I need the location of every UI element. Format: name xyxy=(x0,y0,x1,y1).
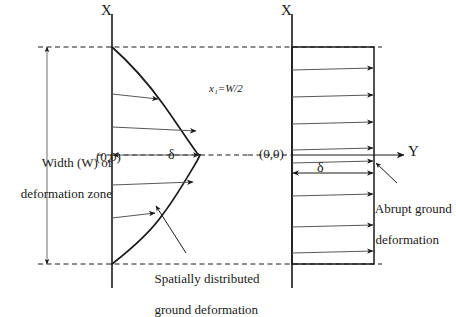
spatially-distributed-caption: Spatially distributed ground deformation xyxy=(148,256,260,317)
right-arrow-7 xyxy=(292,225,373,227)
abrupt-caption-leader xyxy=(376,163,397,183)
right-arrow-5 xyxy=(292,161,373,163)
right-arrow-8 xyxy=(292,251,373,253)
abrupt-caption-line1: Abrupt ground xyxy=(375,201,452,216)
right-arrow-6 xyxy=(292,194,373,196)
left-x-axis-label: X xyxy=(101,2,112,20)
left-origin-label: (0,0) xyxy=(96,149,121,164)
spatial-caption-line2: ground deformation xyxy=(155,302,259,317)
right-origin-label: (0,0) xyxy=(259,146,284,161)
half-width-label: x₁=W/2 xyxy=(209,82,243,95)
spatial-caption-line1: Spatially distributed xyxy=(155,271,260,286)
delta-label-right: δ xyxy=(317,160,324,177)
right-x-axis-label: X xyxy=(281,2,292,20)
left-arrow-1 xyxy=(112,94,158,99)
delta-label-left: δ xyxy=(168,147,175,164)
abrupt-caption-line2: deformation xyxy=(376,232,440,247)
width-label-line2: deformation zone xyxy=(21,186,112,201)
right-arrow-2 xyxy=(292,95,373,97)
left-arrow-4 xyxy=(112,213,155,218)
right-arrow-4 xyxy=(292,148,373,150)
right-arrow-3 xyxy=(292,122,373,124)
left-displacement-arrows xyxy=(112,94,196,218)
left-arrow-3 xyxy=(112,182,193,185)
right-displacement-arrows xyxy=(292,68,373,253)
y-axis-label: Y xyxy=(408,143,419,161)
spatial-caption-leader xyxy=(156,206,186,253)
left-arrow-2 xyxy=(112,127,196,131)
abrupt-deformation-caption: Abrupt ground deformation xyxy=(369,186,452,247)
right-arrow-1 xyxy=(292,68,373,70)
